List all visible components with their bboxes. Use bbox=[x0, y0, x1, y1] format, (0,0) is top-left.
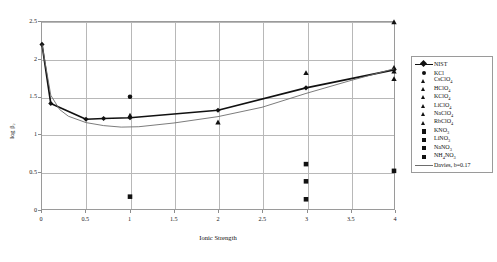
legend-marker-circle-icon bbox=[415, 69, 433, 77]
x-tick-mark bbox=[307, 210, 308, 213]
legend-item-label: NIST bbox=[433, 60, 447, 68]
data-point-triangle bbox=[391, 76, 396, 81]
chart-root: log β₂ 00.511.522.5 00.511.522.533.54 Io… bbox=[0, 0, 497, 262]
y-tick-label: 1 bbox=[34, 131, 37, 137]
x-tick-label: 1 bbox=[128, 216, 131, 222]
plot-area bbox=[41, 21, 395, 210]
x-tick-label: 0 bbox=[39, 216, 42, 222]
x-tick-label: 3.5 bbox=[347, 216, 355, 222]
y-axis-ticks: 00.511.522.5 bbox=[0, 0, 41, 262]
chart-legend: NISTKClCsClO4HClO4KClO4LiClO4NaClO4RbClO… bbox=[411, 56, 493, 173]
data-point-square bbox=[304, 179, 309, 184]
x-tick-label: 2.5 bbox=[258, 216, 266, 222]
x-tick-mark bbox=[174, 210, 175, 213]
data-point-triangle bbox=[215, 120, 220, 125]
data-point-triangle bbox=[391, 19, 396, 24]
data-point-diamond bbox=[48, 101, 53, 106]
y-tick-label: 0 bbox=[34, 207, 37, 213]
legend-item[interactable]: Davies, b=0.17 bbox=[415, 161, 490, 169]
data-point-diamond bbox=[303, 85, 308, 90]
legend-marker-triangle-icon bbox=[415, 94, 433, 102]
y-tick-label: 0.5 bbox=[29, 169, 37, 175]
series-kno- bbox=[128, 194, 133, 199]
data-point-square bbox=[304, 197, 309, 202]
series-lino- bbox=[304, 162, 309, 167]
series-csclo- bbox=[391, 19, 396, 24]
legend-marker-triangle-icon bbox=[415, 85, 433, 93]
x-axis-title-text: Ionic Strength bbox=[199, 234, 237, 241]
series-nist bbox=[39, 42, 396, 122]
legend-item[interactable]: KClO4 bbox=[415, 94, 490, 102]
data-point-triangle bbox=[127, 113, 132, 118]
x-tick-label: 4 bbox=[393, 216, 396, 222]
series-naclo- bbox=[391, 76, 396, 81]
legend-marker-thinline-icon bbox=[415, 161, 433, 169]
series-davies--b-0-17 bbox=[42, 44, 394, 127]
x-tick-mark bbox=[41, 210, 42, 213]
x-tick-label: 2 bbox=[216, 216, 219, 222]
x-tick-mark bbox=[218, 210, 219, 213]
series-nh-no- bbox=[304, 197, 309, 202]
series-kclo- bbox=[303, 70, 308, 75]
legend-marker-square-icon bbox=[415, 127, 433, 135]
x-tick-label: 1.5 bbox=[170, 216, 178, 222]
legend-marker-square-icon bbox=[415, 136, 433, 144]
legend-item[interactable]: RbClO4 bbox=[415, 119, 490, 127]
data-point-square bbox=[128, 194, 133, 199]
y-tick-label: 2.5 bbox=[29, 18, 37, 24]
x-tick-mark bbox=[395, 210, 396, 213]
x-tick-mark bbox=[262, 210, 263, 213]
x-tick-mark bbox=[85, 210, 86, 213]
legend-item[interactable]: CsClO4 bbox=[415, 77, 490, 85]
data-point-circle bbox=[128, 95, 133, 100]
legend-item[interactable]: LiNO3 bbox=[415, 136, 490, 144]
x-tick-label: 0.5 bbox=[81, 216, 89, 222]
x-tick-label: 3 bbox=[305, 216, 308, 222]
series-layer bbox=[42, 22, 394, 209]
data-point-triangle bbox=[303, 70, 308, 75]
legend-marker-square-icon bbox=[415, 152, 433, 160]
x-axis-title: Ionic Strength bbox=[41, 234, 395, 241]
y-tick-label: 2 bbox=[34, 56, 37, 62]
data-point-square bbox=[304, 162, 309, 167]
legend-marker-triangle-icon bbox=[415, 111, 433, 119]
legend-marker-triangle-icon bbox=[415, 102, 433, 110]
y-tick-label: 1.5 bbox=[29, 93, 37, 99]
legend-marker-square-icon bbox=[415, 144, 433, 152]
data-point-diamond bbox=[101, 116, 106, 121]
data-point-diamond bbox=[215, 108, 220, 113]
davies-curve bbox=[42, 44, 394, 127]
data-point-square bbox=[392, 169, 397, 174]
legend-item-label: Davies, b=0.17 bbox=[433, 161, 471, 169]
x-tick-mark bbox=[351, 210, 352, 213]
legend-marker-triangle-icon bbox=[415, 119, 433, 127]
series-kcl bbox=[128, 95, 133, 100]
legend-item[interactable]: NIST bbox=[415, 60, 490, 68]
legend-item[interactable]: NH4NO3 bbox=[415, 152, 490, 160]
legend-marker-triangle-icon bbox=[415, 77, 433, 85]
x-tick-mark bbox=[130, 210, 131, 213]
series-nano- bbox=[304, 169, 397, 184]
legend-marker-line-diamond-icon bbox=[415, 60, 433, 68]
data-point-diamond bbox=[83, 117, 88, 122]
